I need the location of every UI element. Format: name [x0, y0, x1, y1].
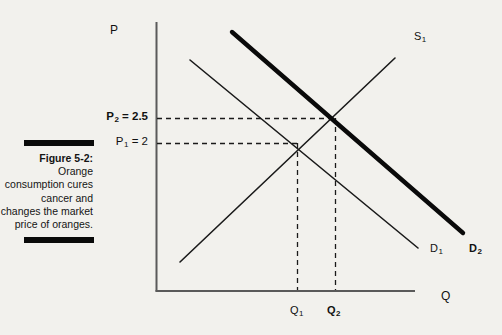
- curve-label-d1-subscript: 1: [438, 247, 443, 256]
- price-label-p1-subscript: 1: [124, 140, 129, 149]
- quantity-label-q1: Q1: [290, 305, 304, 316]
- supply-demand-chart: [0, 0, 502, 335]
- price-label-p1: P1 = 2: [0, 136, 148, 148]
- chart-guide-lines: [157, 118, 336, 290]
- curve-label-s1: S1: [414, 31, 426, 42]
- price-label-p1-value: = 2: [128, 135, 148, 147]
- demand-curve-d2: [232, 32, 463, 233]
- quantity-label-q2: Q2: [327, 305, 341, 316]
- price-label-p2-subscript: 2: [114, 115, 119, 124]
- price-label-p2-value: = 2.5: [119, 110, 148, 122]
- curve-label-d1: D1: [430, 243, 443, 254]
- price-label-p2: P2 = 2.5: [0, 111, 148, 123]
- price-label-p1-prefix: P: [116, 135, 124, 147]
- figure-container: Figure 5-2: Orange consumption cures can…: [0, 0, 502, 335]
- price-label-p2-prefix: P: [106, 110, 114, 122]
- quantity-label-q1-subscript: 1: [299, 309, 304, 318]
- axis-label-quantity: Q: [441, 290, 450, 302]
- curve-label-d1-prefix: D: [430, 242, 438, 254]
- quantity-label-q1-prefix: Q: [290, 304, 299, 316]
- curve-label-d2-subscript: 2: [477, 247, 482, 256]
- curve-label-s1-subscript: 1: [421, 35, 426, 44]
- curve-label-d2-prefix: D: [469, 242, 477, 254]
- quantity-label-q2-prefix: Q: [327, 304, 336, 316]
- axis-label-price: P: [110, 24, 118, 36]
- supply-curve-s1: [180, 58, 395, 262]
- curve-label-d2: D2: [469, 243, 482, 254]
- quantity-label-q2-subscript: 2: [336, 309, 341, 318]
